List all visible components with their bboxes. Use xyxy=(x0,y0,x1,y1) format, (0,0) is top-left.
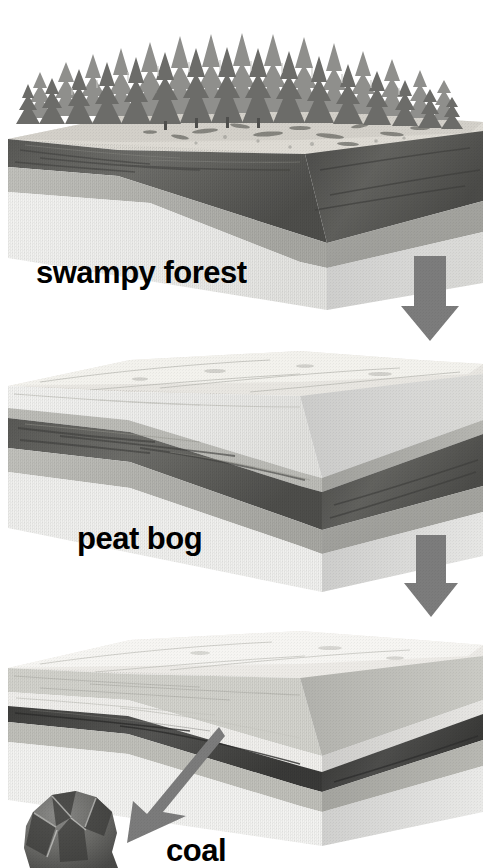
stage-label-peat-bog: peat bog xyxy=(77,521,202,557)
stage-label-swampy-forest: swampy forest xyxy=(36,255,247,291)
coal-formation-diagram xyxy=(0,0,483,868)
swamp-right-face xyxy=(305,131,483,310)
coal-right-face xyxy=(300,656,483,846)
stage-label-coal: coal xyxy=(166,833,226,868)
peat-right-face xyxy=(300,374,483,592)
